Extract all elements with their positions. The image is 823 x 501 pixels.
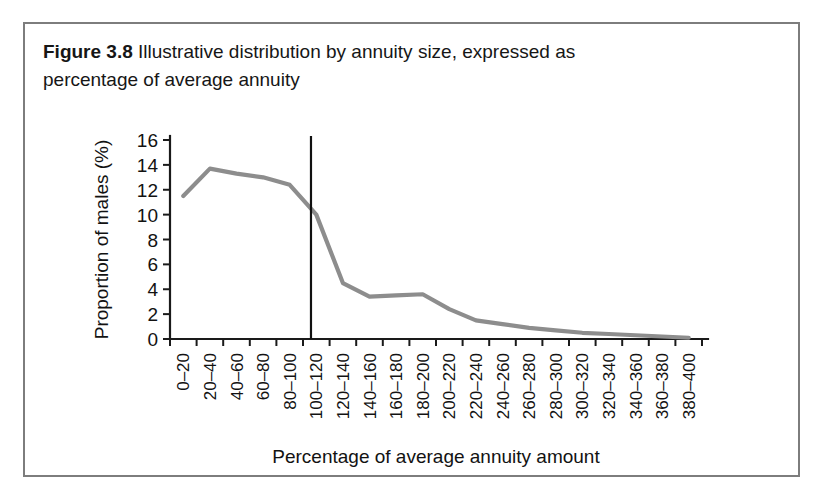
y-tick-label: 6 [147, 254, 158, 275]
y-tick-label: 10 [137, 205, 158, 226]
x-tick-label: 240–260 [494, 353, 513, 419]
x-tick-label: 200–220 [440, 353, 459, 419]
series-line-proportion-of-males [183, 169, 688, 338]
x-tick-label: 100–120 [307, 353, 326, 419]
x-tick-label: 20–40 [201, 353, 220, 400]
x-tick-label: 160–180 [387, 353, 406, 419]
x-tick-label: 60–80 [254, 353, 273, 400]
x-tick-label: 220–240 [467, 353, 486, 419]
x-tick-label: 0–20 [174, 353, 193, 391]
x-tick-label: 300–320 [573, 353, 592, 419]
y-axis-title: Proportion of males (%) [91, 140, 112, 340]
x-tick-label: 140–160 [361, 353, 380, 419]
y-tick-label: 12 [137, 180, 158, 201]
x-tick-label: 80–100 [281, 353, 300, 410]
y-tick-label: 8 [147, 230, 158, 251]
y-tick-label: 4 [147, 279, 158, 300]
x-tick-label: 120–140 [334, 353, 353, 419]
data-series [183, 169, 688, 338]
x-tick-label: 340–360 [627, 353, 646, 419]
x-axis-title: Percentage of average annuity amount [272, 446, 600, 467]
y-tick-label: 0 [147, 329, 158, 350]
x-tick-label: 180–200 [414, 353, 433, 419]
y-tick-label: 2 [147, 304, 158, 325]
figure-frame: Figure 3.8 Illustrative distribution by … [23, 22, 800, 477]
y-axis: 0246810121416 [137, 130, 170, 350]
y-tick-label: 16 [137, 130, 158, 151]
y-tick-label: 14 [137, 155, 159, 176]
x-tick-label: 380–400 [680, 353, 699, 419]
chart-plot-area: 0246810121416 0–2020–4040–6060–8080–1001… [25, 24, 802, 479]
x-tick-label: 360–380 [653, 353, 672, 419]
line-chart: 0246810121416 0–2020–4040–6060–8080–1001… [25, 24, 802, 479]
x-axis: 0–2020–4040–6060–8080–100100–120120–1401… [170, 339, 708, 419]
x-tick-label: 280–300 [547, 353, 566, 419]
x-tick-label: 320–340 [600, 353, 619, 419]
x-tick-label: 40–60 [228, 353, 247, 400]
x-tick-label: 260–280 [520, 353, 539, 419]
